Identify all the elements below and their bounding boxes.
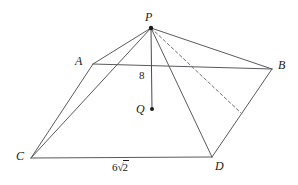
edge-P-B [151, 28, 272, 69]
edge-P-A [93, 28, 151, 64]
apex-dot [149, 26, 153, 30]
center-dot [150, 107, 154, 111]
edge-A-B [93, 64, 272, 69]
label-height-measure: 8 [139, 70, 145, 81]
label-vertex-a: A [75, 55, 82, 67]
edge-A-C [31, 64, 93, 158]
edge-P-D [151, 28, 212, 157]
radicand: 2 [123, 160, 130, 173]
label-base-edge-measure: 6√2 [112, 162, 129, 173]
edge-C-D [31, 157, 212, 158]
edge-P-C [31, 28, 151, 158]
label-vertex-c: C [16, 150, 24, 162]
edge-P-E-hidden [151, 28, 241, 113]
edge-P-Q-altitude [151, 28, 152, 109]
radical-group: √2 [118, 162, 130, 173]
label-vertex-d: D [215, 160, 224, 172]
geometry-figure: P A B C D Q 8 6√2 [0, 0, 298, 185]
label-vertex-b: B [278, 59, 285, 71]
edge-B-D [212, 69, 272, 157]
label-vertex-p: P [145, 11, 152, 23]
label-center-q: Q [136, 103, 145, 115]
pyramid-svg [0, 0, 298, 185]
